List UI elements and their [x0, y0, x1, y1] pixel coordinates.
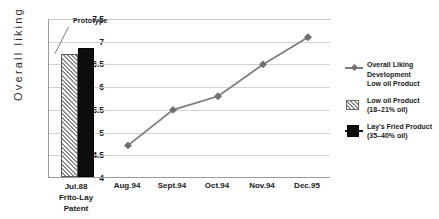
legend-label-line: (18–21% oil)	[367, 105, 439, 115]
legend-label-line: Low oil Product	[367, 79, 439, 89]
x-tick-label-jul88: Jul.88 Frito-Lay Patent	[59, 181, 93, 214]
plot-area	[48, 19, 330, 178]
legend-label-line: (35–40% oil)	[367, 131, 439, 141]
x-tick-label-line: Patent	[59, 203, 93, 214]
legend-item-low-oil-product: Low oil Product (18–21% oil)	[345, 96, 439, 115]
line-series	[49, 19, 331, 178]
x-tick-label-line: Frito-Lay	[59, 192, 93, 203]
prototype-annotation-label: Prototype	[73, 17, 107, 24]
x-tick-label-oct94: Oct.94	[205, 181, 229, 190]
legend-label-line: Lay's Fried Product	[367, 122, 439, 132]
chart-container: Overall liking 7.5 7 6.5 6 5.5 5 4.5 4	[0, 0, 439, 219]
x-tick-label-aug94: Aug.94	[114, 181, 141, 190]
x-tick-label-nov94: Nov.94	[249, 181, 275, 190]
legend-item-lays-fried-product: Lay's Fried Product (35–40% oil)	[345, 122, 439, 141]
hatch-swatch-icon	[345, 99, 363, 109]
line-path	[128, 37, 308, 145]
legend-item-overall-liking: Overall Liking Development Low oil Produ…	[345, 60, 439, 89]
x-tick-label-dec95: Dec.95	[294, 181, 320, 190]
data-point	[304, 33, 312, 41]
legend-label-line: Development	[367, 70, 439, 80]
black-swatch-icon	[345, 125, 363, 135]
x-tick-label-line: Jul.88	[59, 181, 93, 192]
x-tick-label-sept94: Sept.94	[158, 181, 186, 190]
legend-label-line: Overall Liking	[367, 60, 439, 70]
legend-label-line: Low oil Product	[367, 96, 439, 106]
line-marker-icon	[345, 63, 363, 73]
chart-legend: Overall Liking Development Low oil Produ…	[345, 60, 439, 148]
data-point-markers	[124, 33, 312, 149]
